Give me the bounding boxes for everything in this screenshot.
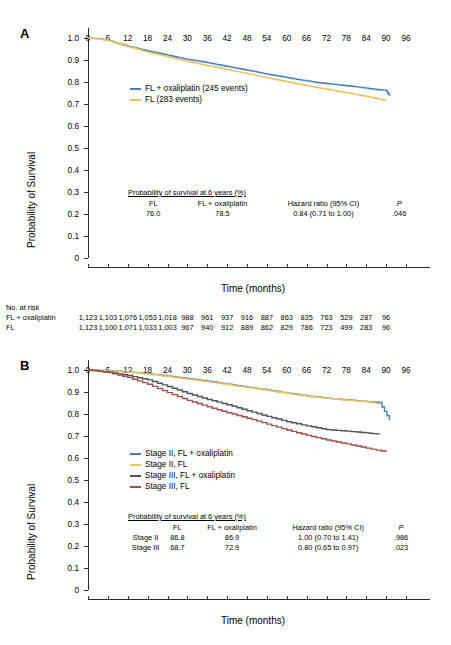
stats-header-cell: Hazard ratio (95% CI) — [272, 523, 384, 533]
y-tick-label-0.5: 0.5 — [68, 144, 79, 153]
legend-swatch-icon — [130, 464, 141, 466]
legend-item-label: Stage II, FL + oxaliplatin — [145, 448, 233, 459]
panel-a-letter: A — [20, 27, 29, 40]
stats-cell: .023 — [384, 543, 418, 553]
panel-a-plot-area: 06121824303642485460667278849096 00.10.2… — [88, 28, 418, 268]
y-tick-label-0.6: 0.6 — [68, 454, 79, 463]
legend-item: Stage II, FL — [130, 459, 235, 470]
stats-header-cell: FL + oxaliplatin — [192, 523, 273, 533]
curve-stage-iii-fl — [88, 370, 386, 452]
legend-item: Stage III, FL — [130, 481, 235, 492]
stats-header-cell: P — [380, 199, 418, 209]
panel-b-stats-header-row: FLFL + oxaliplatinHazard ratio (95% CI)P — [128, 523, 418, 533]
panel-b-stats-table: FLFL + oxaliplatinHazard ratio (95% CI)P… — [128, 523, 418, 553]
stats-cell: .046 — [380, 209, 418, 219]
legend-swatch-icon — [130, 486, 141, 488]
y-tick-label-1.0: 1.0 — [68, 366, 79, 375]
at-risk-value: 1,103 — [99, 313, 118, 323]
panel-a-stats-block: Probability of survival at 6 years (%) F… — [128, 188, 418, 219]
y-tick-label-0.1: 0.1 — [68, 232, 79, 241]
panel-a-legend: FL + oxaliplatin (245 events)FL (283 eve… — [130, 83, 248, 105]
legend-item-label: Stage II, FL — [145, 459, 187, 470]
at-risk-value: 1,076 — [119, 313, 138, 323]
stats-cell: Stage III — [128, 543, 163, 553]
y-tick-label-0.3: 0.3 — [68, 520, 79, 529]
panel-b-letter: B — [20, 359, 29, 372]
stats-cell: 86.8 — [163, 533, 191, 543]
y-tick-label-0.5: 0.5 — [68, 476, 79, 485]
at-risk-value: 988 — [181, 313, 193, 323]
stats-cell: 76.0 — [128, 209, 178, 219]
legend-item: FL + oxaliplatin (245 events) — [130, 83, 248, 94]
legend-item-label: Stage III, FL — [145, 481, 190, 492]
panel-b-y-axis-title: Probability of Survival — [26, 484, 37, 580]
stats-header-cell — [128, 523, 163, 533]
y-tick-label-0: 0 — [74, 586, 79, 595]
at-risk-value: 287 — [360, 313, 372, 323]
stats-cell: 68.7 — [163, 543, 191, 553]
y-tick-label-0.7: 0.7 — [68, 432, 79, 441]
at-risk-value: 937 — [221, 313, 233, 323]
y-tick-label-0.6: 0.6 — [68, 122, 79, 131]
legend-swatch-icon — [130, 475, 141, 477]
y-tick-label-0.7: 0.7 — [68, 100, 79, 109]
panel-b-plot-area: 06121824303642485460667278849096 00.10.2… — [88, 360, 418, 600]
stats-header-cell: P — [384, 523, 418, 533]
stats-header-cell: FL + oxaliplatin — [178, 199, 266, 209]
panel-b-legend: Stage II, FL + oxaliplatinStage II, FLSt… — [130, 448, 235, 492]
stats-cell: 0.80 (0.65 to 0.97) — [272, 543, 384, 553]
at-risk-value: 529 — [340, 313, 352, 323]
stats-header-cell: FL — [128, 199, 178, 209]
at-risk-value: 1,123 — [79, 313, 98, 323]
at-risk-value: 961 — [201, 313, 213, 323]
at-risk-value: 863 — [281, 313, 293, 323]
stats-cell: 1.00 (0.70 to 1.41) — [272, 533, 384, 543]
at-risk-row-label: FL + oxaliplatin — [6, 313, 56, 323]
stats-row: Stage III68.772.90.80 (0.65 to 0.97).023 — [128, 543, 418, 553]
legend-item-label: FL (283 events) — [145, 94, 202, 105]
stats-cell: 86.9 — [192, 533, 273, 543]
y-tick-label-0: 0 — [74, 254, 79, 263]
y-tick-label-0.8: 0.8 — [68, 78, 79, 87]
panel-a-y-axis-title: Probability of Survival — [26, 152, 37, 248]
y-tick-label-0.3: 0.3 — [68, 188, 79, 197]
at-risk-value: 1,018 — [158, 313, 177, 323]
y-tick-label-0.1: 0.1 — [68, 564, 79, 573]
stats-row: Stage II86.886.91.00 (0.70 to 1.41).986 — [128, 533, 418, 543]
panel-a-x-axis-title: Time (months) — [88, 283, 418, 294]
stats-header-cell: Hazard ratio (95% CI) — [267, 199, 381, 209]
panel-a-stats-header-row: FLFL + oxaliplatinHazard ratio (95% CI)P — [128, 199, 418, 209]
panel-b: B Probability of Survival 06121824303642… — [0, 332, 451, 645]
y-tick-label-0.2: 0.2 — [68, 210, 79, 219]
y-tick-label-1.0: 1.0 — [68, 34, 79, 43]
y-tick-label-0.8: 0.8 — [68, 410, 79, 419]
legend-item-label: Stage III, FL + oxaliplatin — [145, 470, 235, 481]
legend-swatch-icon — [130, 99, 141, 101]
legend-item: Stage II, FL + oxaliplatin — [130, 448, 235, 459]
at-risk-value: 916 — [241, 313, 253, 323]
legend-swatch-icon — [130, 453, 141, 455]
legend-item: FL (283 events) — [130, 94, 248, 105]
panel-a-survival-curves — [88, 28, 418, 268]
at-risk-value: 835 — [300, 313, 312, 323]
y-tick-label-0.4: 0.4 — [68, 166, 79, 175]
at-risk-value: 763 — [320, 313, 332, 323]
panel-a-stats-title: Probability of survival at 6 years (%) — [128, 188, 418, 198]
stats-cell: Stage II — [128, 533, 163, 543]
panel-a-stats-table: FLFL + oxaliplatinHazard ratio (95% CI)P… — [128, 199, 418, 219]
stats-cell: .986 — [384, 533, 418, 543]
at-risk-row: FL + oxaliplatin1,1231,1031,0761,0531,01… — [6, 313, 451, 323]
stats-cell: 0.84 (0.71 to 1.00) — [267, 209, 381, 219]
curve-stage-iii-fl-oxaliplatin — [88, 370, 380, 434]
kaplan-meier-figure: A Probability of Survival 06121824303642… — [0, 0, 451, 645]
at-risk-value: 1,053 — [138, 313, 157, 323]
legend-item-label: FL + oxaliplatin (245 events) — [145, 83, 248, 94]
panel-a: A Probability of Survival 06121824303642… — [0, 0, 451, 300]
y-tick-label-0.4: 0.4 — [68, 498, 79, 507]
panel-b-stats-title: Probability of survival at 6 years (%) — [128, 512, 418, 522]
at-risk-title: No. at risk — [6, 303, 451, 312]
stats-cell: 78.5 — [178, 209, 266, 219]
stats-header-cell: FL — [163, 523, 191, 533]
panel-b-stats-block: Probability of survival at 6 years (%) F… — [128, 512, 418, 553]
legend-item: Stage III, FL + oxaliplatin — [130, 470, 235, 481]
